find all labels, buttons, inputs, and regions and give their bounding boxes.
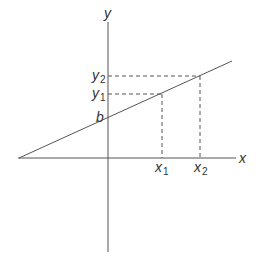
x2-label: x 2 bbox=[193, 159, 208, 177]
svg-text:x: x bbox=[154, 159, 163, 175]
intercept-label: b bbox=[96, 109, 104, 125]
x1-label: x 1 bbox=[154, 159, 169, 177]
svg-text:2: 2 bbox=[100, 74, 106, 85]
y1-label: y 1 bbox=[91, 85, 106, 103]
svg-text:1: 1 bbox=[163, 166, 169, 177]
svg-text:2: 2 bbox=[202, 166, 208, 177]
graph-svg: y x b y 1 y 2 x 1 x 2 bbox=[0, 0, 257, 266]
svg-text:y: y bbox=[91, 85, 100, 101]
svg-text:x: x bbox=[193, 159, 202, 175]
x-axis-label: x bbox=[238, 150, 247, 166]
svg-text:1: 1 bbox=[100, 92, 106, 103]
svg-text:y: y bbox=[91, 67, 100, 83]
y-axis-label: y bbox=[103, 5, 112, 21]
diagram-canvas: y x b y 1 y 2 x 1 x 2 bbox=[0, 0, 257, 266]
y2-label: y 2 bbox=[91, 67, 106, 85]
